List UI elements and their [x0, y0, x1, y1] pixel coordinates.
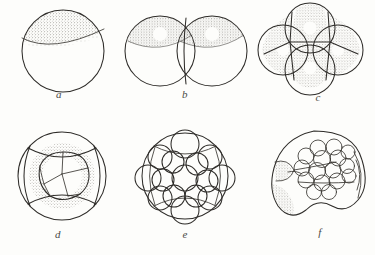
figure-label-f: f: [305, 226, 335, 238]
figure-a: [8, 4, 118, 96]
figure-label-d: d: [43, 228, 73, 240]
figure-label-b: b: [170, 88, 200, 100]
figure-f: [262, 126, 374, 226]
figure-b: [122, 10, 250, 96]
figure-label-c: c: [303, 91, 333, 103]
figure-c: [252, 2, 370, 98]
embryology-plate: a: [0, 0, 375, 255]
figure-e: [130, 126, 240, 226]
figure-label-e: e: [170, 228, 200, 240]
figure-label-a: a: [44, 88, 74, 100]
figure-d: [6, 126, 118, 226]
